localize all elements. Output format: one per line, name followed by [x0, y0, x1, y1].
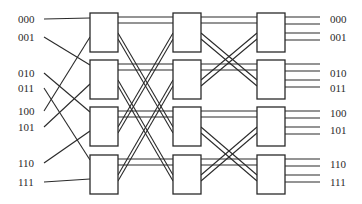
output-label: 000: [330, 13, 347, 25]
switch-box-stage3-3: [257, 107, 285, 146]
output-label: 010: [330, 67, 347, 79]
input-label: 110: [18, 157, 35, 169]
network-diagram: 0000010100111001011101110000010100111001…: [0, 0, 362, 204]
input-label: 000: [18, 13, 35, 25]
input-wire: [44, 179, 90, 182]
input-label: 011: [18, 82, 34, 94]
output-label: 011: [330, 82, 346, 94]
switch-box-stage1-4: [90, 155, 118, 194]
switch-box-stage2-3: [173, 107, 201, 146]
input-label: 111: [18, 176, 34, 188]
switch-box-stage3-2: [257, 60, 285, 99]
switch-box-stage2-1: [173, 13, 201, 52]
input-wire: [44, 131, 90, 163]
switch-box-stage1-1: [90, 13, 118, 52]
switch-box-stage2-2: [173, 60, 201, 99]
input-label: 001: [18, 31, 35, 43]
input-wire: [44, 37, 90, 65]
input-wire: [44, 88, 90, 160]
switch-box-stage3-1: [257, 13, 285, 52]
output-label: 111: [330, 176, 346, 188]
input-wire: [44, 37, 90, 111]
switch-box-stage1-2: [90, 60, 118, 99]
output-label: 101: [330, 124, 347, 136]
input-wire: [44, 18, 90, 19]
switch-box-stage3-4: [257, 155, 285, 194]
switch-box-stage2-4: [173, 155, 201, 194]
input-label: 100: [18, 105, 35, 117]
input-label: 101: [18, 121, 35, 133]
output-label: 100: [330, 107, 347, 119]
output-label: 001: [330, 31, 347, 43]
output-label: 110: [330, 158, 347, 170]
switch-box-stage1-3: [90, 107, 118, 146]
input-label: 010: [18, 67, 35, 79]
